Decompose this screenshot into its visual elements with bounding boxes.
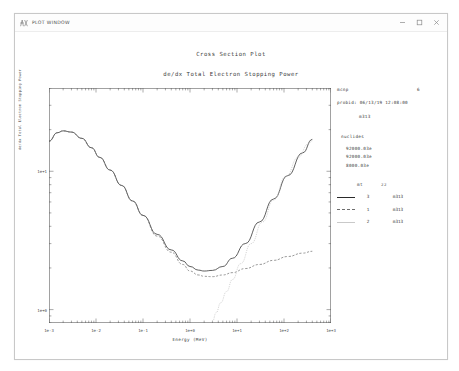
- plot-axes: [49, 88, 331, 323]
- plot-window: PLOT WINDOW Cross Section Plot de/dx Tot…: [14, 13, 448, 360]
- legend-row: 3m313: [337, 195, 442, 199]
- x-tick-label: 1e+2: [279, 328, 289, 333]
- legend-mt-value: 3: [355, 195, 381, 199]
- legend-zz-value: m313: [381, 195, 415, 199]
- x-tick-label: 1e+0: [185, 328, 195, 333]
- info-panel: mcnp 6 probid: 06/13/19 12:08:00 m313 nu…: [337, 88, 442, 232]
- legend-col-zz: zz: [381, 183, 411, 187]
- x-tick-label: 1e-2: [91, 328, 101, 333]
- plot-subtitle: de/dx Total Electron Stopping Power: [15, 71, 447, 77]
- close-icon[interactable]: [428, 15, 445, 30]
- x-tick-label: 1e-1: [138, 328, 148, 333]
- plot-window-icon: [20, 19, 28, 27]
- legend-col-mt: mt: [357, 183, 381, 187]
- legend-line-swatch: [337, 208, 355, 212]
- legend-zz-value: m313: [381, 220, 415, 224]
- screen: PLOT WINDOW Cross Section Plot de/dx Tot…: [0, 0, 459, 371]
- y-tick-label: 1e+1: [30, 169, 47, 174]
- code-row: mcnp 6: [337, 88, 442, 92]
- nuclide-item: 92000.03e: [337, 155, 442, 159]
- plot-title: Cross Section Plot: [15, 51, 447, 57]
- y-axis-label: de/dx Total Electron Stopping Power: [18, 69, 22, 150]
- maximize-icon[interactable]: [411, 15, 428, 30]
- legend-rows: 3m3131m3132m313: [337, 195, 442, 224]
- window-title: PLOT WINDOW: [32, 20, 70, 25]
- nuclide-item: 8000.03e: [337, 164, 442, 168]
- legend-mt-value: 1: [355, 208, 381, 212]
- legend: mt zz 3m3131m3132m313: [337, 183, 442, 224]
- series-line-radiative: [212, 141, 312, 322]
- legend-line-swatch: [337, 220, 355, 224]
- x-tick-label: 1e-3: [44, 328, 54, 333]
- window-controls: [394, 14, 445, 31]
- code-version: 6: [417, 88, 442, 92]
- x-tick-label: 1e+1: [232, 328, 242, 333]
- nuclides-list: 92000.03e92000.03e8000.03e: [337, 147, 442, 168]
- nuclide-item: 92000.03e: [337, 147, 442, 151]
- minimize-icon[interactable]: [394, 15, 411, 30]
- x-tick-label: 1e+3: [326, 328, 336, 333]
- legend-row: 2m313: [337, 220, 442, 224]
- code-label: mcnp: [337, 88, 349, 92]
- series-line-total: [49, 131, 312, 271]
- legend-header: mt zz: [337, 183, 442, 187]
- legend-line-swatch: [337, 196, 355, 200]
- legend-row: 1m313: [337, 208, 442, 212]
- tally-id: m313: [337, 115, 442, 119]
- x-axis-label: Energy (MeV): [49, 337, 331, 342]
- probid-line: probid: 06/13/19 12:08:00: [337, 101, 442, 105]
- window-titlebar[interactable]: PLOT WINDOW: [15, 14, 447, 32]
- series-line-collision: [49, 131, 312, 277]
- plot-canvas: Cross Section Plot de/dx Total Electron …: [15, 32, 447, 359]
- legend-mt-value: 2: [355, 220, 381, 224]
- legend-zz-value: m313: [381, 208, 415, 212]
- y-tick-label: 1e+0: [30, 307, 47, 312]
- nuclides-header: nuclides: [337, 135, 442, 139]
